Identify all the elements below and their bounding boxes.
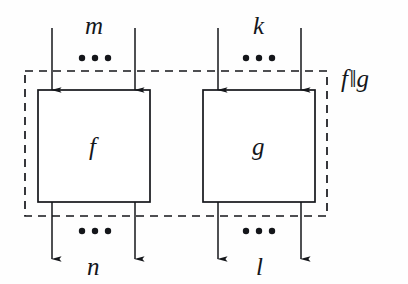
input-label-m: m	[85, 13, 103, 38]
ellipsis-output-g	[243, 228, 275, 234]
output-label-n: n	[87, 254, 100, 279]
diagram-canvas	[0, 0, 408, 284]
parallel-composition-figure: m k f g n l f‖g	[0, 0, 408, 284]
ellipsis-output-f	[79, 228, 111, 234]
block-label-g: g	[252, 134, 265, 159]
composite-label-f-parallel-g: f‖g	[341, 66, 369, 91]
output-label-l: l	[256, 254, 263, 279]
ellipsis-input-g	[243, 55, 275, 61]
ellipsis-input-f	[79, 55, 111, 61]
composite-operand-g: g	[356, 65, 369, 92]
block-label-f: f	[89, 134, 96, 159]
input-label-k: k	[253, 13, 264, 38]
